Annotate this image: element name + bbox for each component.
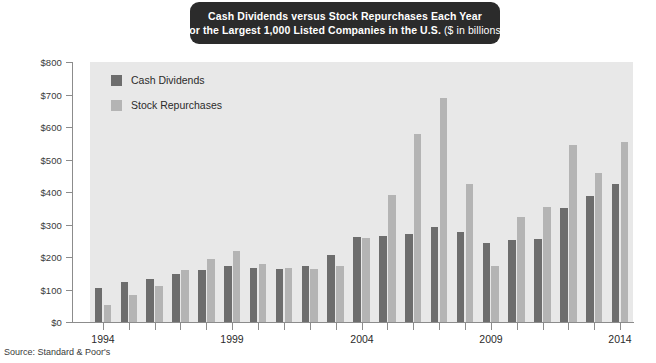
x-axis-tick <box>103 323 104 330</box>
x-axis-tick <box>517 323 518 330</box>
x-axis-tick <box>543 323 544 330</box>
bar-repurchases-2007 <box>440 98 448 322</box>
x-axis-tick <box>336 323 337 330</box>
bar-repurchases-2005 <box>388 195 396 322</box>
bar-dividends-2000 <box>250 268 258 322</box>
bar-dividends-1995 <box>121 282 129 322</box>
bars-layer <box>0 0 656 322</box>
x-axis-tick <box>155 323 156 330</box>
bar-dividends-2009 <box>483 243 491 322</box>
bar-dividends-2004 <box>353 237 361 323</box>
bar-repurchases-2003 <box>336 266 344 322</box>
x-axis-tick <box>310 323 311 330</box>
legend-swatch-repurchases <box>111 100 122 111</box>
bar-repurchases-1999 <box>233 251 241 322</box>
x-axis-tick <box>620 323 621 330</box>
bar-repurchases-2000 <box>259 264 267 323</box>
bar-repurchases-1995 <box>129 295 137 322</box>
x-axis-label: 2014 <box>608 333 631 345</box>
bar-repurchases-2004 <box>362 238 370 323</box>
bar-dividends-2012 <box>560 208 568 322</box>
x-axis-line <box>72 322 634 323</box>
bar-dividends-2014 <box>612 184 620 322</box>
bar-repurchases-2002 <box>310 269 318 322</box>
bar-dividends-2002 <box>302 266 310 322</box>
bar-dividends-1999 <box>224 266 232 322</box>
x-axis-tick <box>439 323 440 330</box>
legend-item-repurchases: Stock Repurchases <box>111 99 222 111</box>
bar-dividends-1996 <box>146 279 154 322</box>
bar-repurchases-2010 <box>517 217 525 322</box>
bar-dividends-2005 <box>379 236 387 322</box>
x-axis-tick <box>413 323 414 330</box>
x-axis-label: 1999 <box>220 333 243 345</box>
x-axis-tick <box>362 323 363 330</box>
source-note: Source: Standard & Poor's <box>4 347 110 357</box>
bar-repurchases-1994 <box>104 305 112 322</box>
bar-dividends-2011 <box>534 239 542 322</box>
bar-dividends-2008 <box>457 232 465 322</box>
bar-repurchases-2014 <box>621 142 629 322</box>
legend-swatch-dividends <box>111 75 122 86</box>
bar-dividends-2006 <box>405 234 413 322</box>
bar-repurchases-2008 <box>466 184 474 322</box>
bar-repurchases-2011 <box>543 207 551 322</box>
bar-dividends-1998 <box>198 270 206 322</box>
legend-item-dividends: Cash Dividends <box>111 74 222 86</box>
x-axis-label: 1994 <box>91 333 114 345</box>
x-axis-tick <box>180 323 181 330</box>
bar-dividends-2001 <box>276 269 284 322</box>
bar-repurchases-2013 <box>595 173 603 323</box>
x-axis-tick <box>284 323 285 330</box>
bar-dividends-2013 <box>586 196 594 322</box>
chart-legend: Cash DividendsStock Repurchases <box>111 74 222 124</box>
x-axis-tick <box>387 323 388 330</box>
bar-repurchases-2009 <box>491 266 499 322</box>
bar-repurchases-1998 <box>207 259 215 322</box>
bar-repurchases-2001 <box>285 268 293 322</box>
legend-label-dividends: Cash Dividends <box>131 74 205 86</box>
x-axis-tick <box>129 323 130 330</box>
x-axis-tick <box>568 323 569 330</box>
bar-dividends-1994 <box>95 288 103 322</box>
bar-repurchases-2006 <box>414 134 422 322</box>
bar-repurchases-1997 <box>181 270 189 322</box>
bar-dividends-2007 <box>431 227 439 322</box>
bar-dividends-1997 <box>172 274 180 322</box>
x-axis-label: 2009 <box>479 333 502 345</box>
x-axis-tick <box>206 323 207 330</box>
bar-dividends-2010 <box>508 240 516 322</box>
x-axis-tick <box>258 323 259 330</box>
bar-repurchases-1996 <box>155 286 163 322</box>
legend-label-repurchases: Stock Repurchases <box>131 99 222 111</box>
bar-repurchases-2012 <box>569 145 577 322</box>
y-axis-tick <box>66 322 73 323</box>
x-axis-tick <box>465 323 466 330</box>
x-axis-tick <box>491 323 492 330</box>
x-axis-tick <box>232 323 233 330</box>
x-axis-label: 2004 <box>350 333 373 345</box>
bar-dividends-2003 <box>327 255 335 322</box>
chart-container: Cash Dividends versus Stock Repurchases … <box>0 0 656 363</box>
x-axis-tick <box>594 323 595 330</box>
